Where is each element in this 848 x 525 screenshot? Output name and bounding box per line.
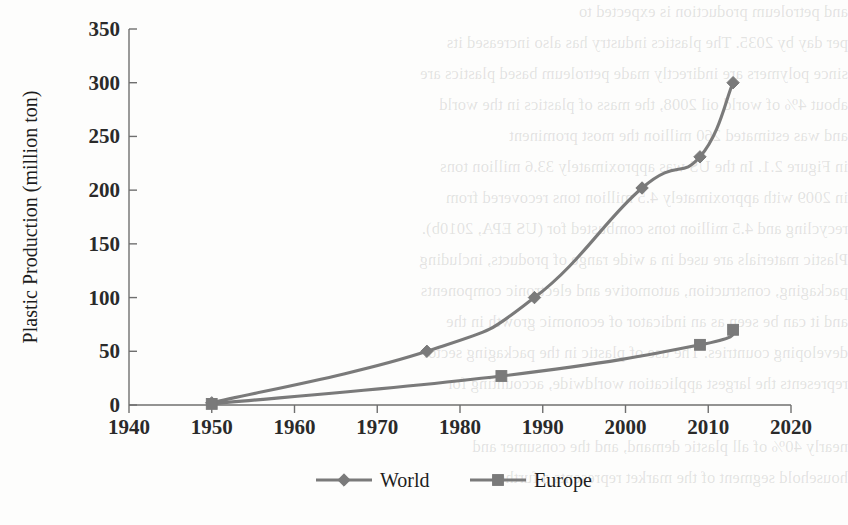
series-line <box>212 330 733 404</box>
x-tick-label: 1990 <box>522 415 564 439</box>
y-tick-label: 100 <box>89 286 121 310</box>
y-tick-label: 300 <box>89 71 121 95</box>
square-marker <box>496 371 507 382</box>
x-tick-label: 1960 <box>274 415 316 439</box>
legend-item-europe[interactable]: Europe <box>470 469 592 492</box>
series-world <box>206 77 740 410</box>
y-tick-label: 200 <box>89 178 121 202</box>
diamond-marker <box>727 77 739 89</box>
x-tick-label: 2020 <box>770 415 812 439</box>
diamond-marker <box>421 345 433 357</box>
x-tick-label: 1980 <box>439 415 481 439</box>
y-tick-label: 350 <box>89 17 121 41</box>
data-series-layer <box>206 77 740 410</box>
x-tick-label: 1940 <box>108 415 150 439</box>
legend-item-world[interactable]: World <box>316 469 430 491</box>
x-axis-ticks <box>129 405 791 413</box>
y-tick-label: 0 <box>110 393 121 417</box>
square-marker <box>493 475 504 486</box>
square-marker <box>695 339 706 350</box>
x-axis-tick-labels: 194019501960197019801990200020102020 <box>108 415 812 439</box>
legend-label: Europe <box>534 469 592 492</box>
y-axis-ticks <box>129 29 137 405</box>
scanned-page: and petroleum production is expected to … <box>0 0 848 525</box>
x-tick-label: 2000 <box>605 415 647 439</box>
y-tick-label: 50 <box>99 339 120 363</box>
x-tick-label: 1950 <box>191 415 233 439</box>
diamond-marker <box>338 474 350 486</box>
x-tick-label: 1970 <box>356 415 398 439</box>
chart-legend: WorldEurope <box>316 469 592 492</box>
x-tick-label: 2010 <box>687 415 729 439</box>
legend-label: World <box>380 469 430 491</box>
y-axis-title: Plastic Production (million ton) <box>19 91 42 344</box>
y-tick-label: 150 <box>89 232 121 256</box>
axis-lines <box>129 29 791 405</box>
square-marker <box>728 324 739 335</box>
plastic-production-line-chart: Plastic Production (million ton) 3503002… <box>0 0 848 525</box>
square-marker <box>206 399 217 410</box>
y-axis-tick-labels: 350300250200150100500 <box>89 17 121 417</box>
y-tick-label: 250 <box>89 124 121 148</box>
